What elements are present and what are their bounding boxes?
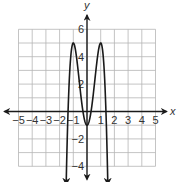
- x-tick-label: 4: [139, 114, 145, 126]
- function-graph: −5−4−3−2−112345642−2−4 x y: [0, 0, 178, 182]
- y-tick-label: 6: [78, 23, 84, 35]
- y-tick-label: −4: [71, 160, 84, 172]
- y-tick-label: 4: [78, 51, 84, 63]
- y-axis-label: y: [83, 0, 91, 11]
- x-tick-label: −4: [26, 114, 39, 126]
- y-tick-label: −2: [71, 133, 84, 145]
- x-tick-label: −1: [67, 114, 80, 126]
- x-tick-label: −5: [12, 114, 25, 126]
- x-tick-label: 5: [152, 114, 158, 126]
- x-tick-label: −3: [40, 114, 53, 126]
- x-tick-label: 3: [125, 114, 131, 126]
- x-tick-label: 1: [98, 114, 104, 126]
- x-axis-label: x: [169, 105, 176, 117]
- x-tick-label: −2: [53, 114, 66, 126]
- x-tick-label: 2: [111, 114, 117, 126]
